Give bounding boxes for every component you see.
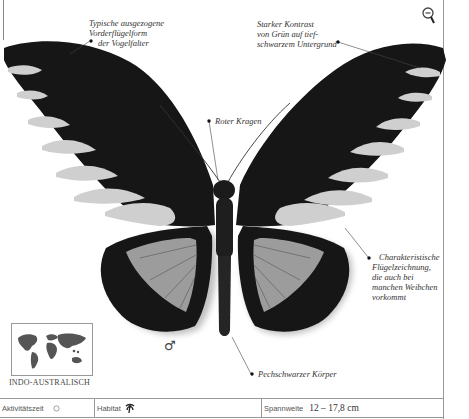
label-line: von Grün auf tief- (257, 29, 337, 39)
label-line: Charakteristische (379, 252, 439, 262)
wingspan-cell: Spannweite 12 – 17,8 cm (262, 399, 444, 417)
world-map-icon (11, 323, 93, 376)
habitat-label: Habitat (97, 404, 121, 413)
label-body: Pechschwarzer Körper (258, 369, 337, 379)
label-line: Flügelzeichnung, (372, 262, 439, 272)
label-line: Starker Kontrast (257, 19, 337, 29)
label-line: Vorderflügelform (89, 28, 164, 38)
label-line: vorkommt (372, 292, 439, 302)
label-contrast: Starker Kontrast von Grün auf tief- schw… (257, 19, 337, 49)
label-wing-pattern: Charakteristische Flügelzeichnung, die a… (379, 252, 439, 302)
label-line: Typische ausgezogene (89, 18, 164, 28)
info-footer: Aktivitätszeit Habitat Spannweite 12 – 1… (0, 398, 444, 418)
activity-label: Aktivitätszeit (2, 404, 44, 413)
label-line: der Vogelfalter (89, 38, 164, 48)
sun-icon (52, 404, 61, 413)
habitat-cell: Habitat (95, 399, 262, 417)
male-symbol: ♂ (164, 338, 176, 353)
palm-tree-icon (125, 403, 135, 414)
label-line: schwarzem Untergrund (257, 39, 337, 49)
label-line: manchen Weibchen (372, 282, 439, 292)
zoom-out-icon[interactable] (421, 6, 437, 26)
wingspan-value: 12 – 17,8 cm (309, 403, 359, 413)
label-forewing-shape: Typische ausgezogene Vorderflügelform de… (89, 18, 164, 48)
wingspan-label: Spannweite (264, 404, 303, 413)
label-line: die auch bei (372, 272, 439, 282)
label-collar: Roter Kragen (215, 116, 262, 126)
activity-cell: Aktivitätszeit (0, 399, 95, 417)
field-guide-page: Typische ausgezogene Vorderflügelform de… (0, 0, 469, 419)
region-caption: INDO-AUSTRALISCH (9, 378, 90, 387)
